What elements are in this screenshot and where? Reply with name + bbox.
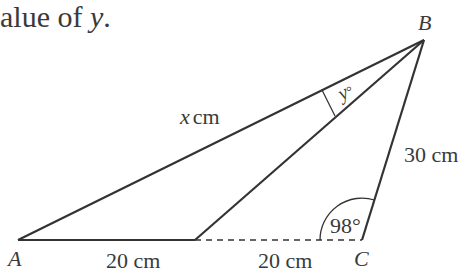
label-AB-var: x [180, 104, 190, 129]
vertex-label-B: B [418, 10, 431, 36]
segment-DB [195, 40, 424, 240]
vertex-label-C: C [354, 246, 369, 272]
label-DC: 20 cm [258, 248, 312, 274]
angle-arc-B [322, 90, 335, 116]
label-AD: 20 cm [106, 248, 160, 274]
label-BC: 30 cm [404, 142, 458, 168]
label-AB-unit: cm [193, 104, 220, 129]
label-AB: xcm [180, 104, 220, 130]
side-BC [362, 40, 424, 240]
label-angle-C: 98° [330, 213, 361, 239]
triangle-diagram [0, 0, 465, 280]
side-AB [18, 40, 424, 240]
vertex-label-A: A [8, 246, 21, 272]
